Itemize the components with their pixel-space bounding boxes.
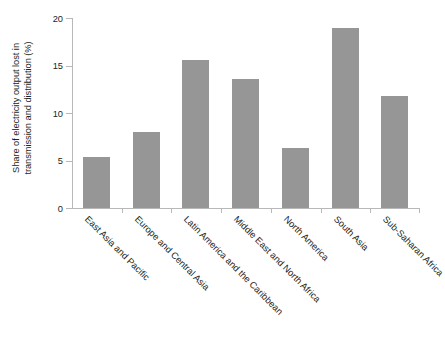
- x-tick-label-latin-america-and-the-caribbean: Latin America and the Caribbean: [182, 214, 286, 318]
- bar-middle-east-and-north-africa: [232, 79, 259, 208]
- y-tick-label-5: 5: [58, 156, 63, 166]
- y-axis-title-text: Share of electricity output lost in tran…: [10, 41, 35, 174]
- bar-north-america: [282, 148, 309, 208]
- y-tick-label-20: 20: [53, 14, 63, 24]
- bar-south-asia: [332, 28, 359, 208]
- x-tick-label-north-america: North America: [281, 214, 330, 263]
- plot-area: 0 5 10 15 20: [72, 18, 420, 208]
- bar-latin-america-and-the-caribbean: [182, 60, 209, 208]
- x-axis-tick-labels: East Asia and Pacific Europe and Central…: [72, 208, 420, 341]
- y-tick-label-15: 15: [53, 61, 63, 71]
- x-tick-label-sub-saharan-africa: Sub-Saharan Africa: [381, 214, 445, 279]
- x-tick-label-south-asia: South Asia: [331, 214, 370, 253]
- y-tick-10: 10: [66, 113, 72, 114]
- y-tick-label-0: 0: [58, 204, 63, 214]
- y-tick-15: 15: [66, 66, 72, 67]
- y-axis-title-line-1: Share of electricity output lost in: [10, 41, 22, 174]
- bar-east-asia-and-pacific: [83, 157, 110, 208]
- y-axis-title: Share of electricity output lost in tran…: [0, 0, 44, 215]
- y-tick-5: 5: [66, 161, 72, 162]
- bar-sub-saharan-africa: [381, 96, 408, 208]
- y-axis-title-line-2: transmission and distribution (%): [22, 41, 34, 174]
- x-tick-label-middle-east-and-north-africa: Middle East and North Africa: [231, 214, 322, 305]
- y-tick-20: 20: [66, 18, 72, 19]
- y-axis-line: [72, 18, 73, 208]
- bar-europe-and-central-asia: [133, 132, 160, 208]
- y-tick-label-10: 10: [53, 109, 63, 119]
